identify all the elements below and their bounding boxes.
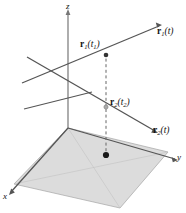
curve-r1-label-index: 1 bbox=[161, 30, 164, 37]
x-axis-label: x bbox=[3, 192, 7, 201]
curve-r1-label: r1(t) bbox=[157, 27, 173, 37]
curve-r2-label-index: 2 bbox=[157, 129, 160, 136]
vector-curves-figure: z y x r1(t) r1(t1) r2(t2) r2(t) bbox=[0, 0, 186, 213]
point-r1-t1-label-arg-index: 1 bbox=[93, 43, 96, 50]
point-r2-t2-label-arg-index: 2 bbox=[123, 101, 126, 108]
point-r2-t2-label-index: 2 bbox=[114, 101, 117, 108]
y-axis-label: y bbox=[177, 153, 181, 162]
curve-r1 bbox=[22, 26, 159, 83]
point-r2-t2-label-paren-close: ) bbox=[127, 97, 130, 107]
curve-r2-label: r2(t) bbox=[153, 126, 169, 136]
point-r1-t1 bbox=[104, 53, 109, 58]
point-r1-t1-label-paren-close: ) bbox=[97, 39, 100, 49]
point-r2-t2-label: r2(t2) bbox=[110, 98, 130, 108]
auxiliary-line bbox=[24, 92, 92, 109]
point-projection bbox=[103, 152, 109, 158]
point-r2-t2 bbox=[104, 105, 108, 109]
point-r1-t1-label: r1(t1) bbox=[80, 40, 100, 50]
z-axis-label: z bbox=[66, 2, 70, 11]
curve-r2 bbox=[27, 57, 155, 131]
curve-r1-label-arg: (t) bbox=[164, 26, 173, 36]
curve-r2-label-arg: (t) bbox=[160, 125, 169, 135]
point-r1-t1-label-index: 1 bbox=[84, 43, 87, 50]
